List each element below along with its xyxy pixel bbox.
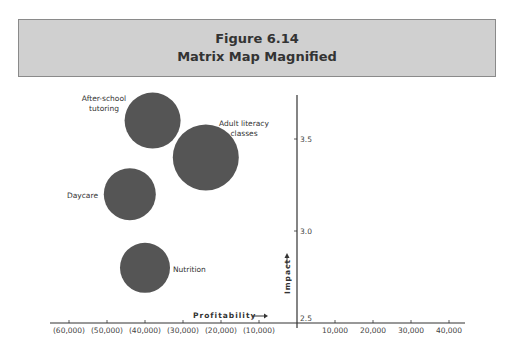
bubble-nutrition bbox=[120, 243, 170, 293]
x-axis-title: Profitability bbox=[193, 311, 256, 320]
y-axis-arrowhead-icon bbox=[285, 253, 290, 258]
y-tick-label: 2.5 bbox=[300, 314, 312, 323]
x-tick-label: 10,000 bbox=[322, 326, 348, 335]
x-tick-label: (30,000) bbox=[167, 326, 199, 335]
bubble-label: Nutrition bbox=[173, 265, 206, 274]
x-tick-label: (10,000) bbox=[243, 326, 275, 335]
y-tick-label: 3.0 bbox=[300, 227, 312, 236]
x-tick-label: (40,000) bbox=[129, 326, 161, 335]
bubble-daycare bbox=[104, 168, 156, 220]
x-axis-arrowhead-icon bbox=[264, 314, 268, 319]
bubble-label: tutoring bbox=[89, 104, 119, 113]
bubble-label: Adult literacy bbox=[219, 119, 269, 128]
bubble-label: classes bbox=[230, 129, 257, 138]
bubble-label: After-school bbox=[82, 94, 126, 103]
x-tick-label: 40,000 bbox=[436, 326, 462, 335]
x-tick-label: 30,000 bbox=[398, 326, 424, 335]
x-tick-label: (20,000) bbox=[205, 326, 237, 335]
y-tick-label: 3.5 bbox=[300, 135, 312, 144]
bubble-chart: (60,000)(50,000)(40,000)(30,000)(20,000)… bbox=[0, 0, 517, 356]
bubble-adult-literacy-classes bbox=[173, 124, 239, 190]
bubble-after-school-tutoring bbox=[125, 93, 181, 149]
x-tick-label: 20,000 bbox=[360, 326, 386, 335]
x-tick-label: (60,000) bbox=[53, 326, 85, 335]
x-tick-label: (50,000) bbox=[91, 326, 123, 335]
bubble-label: Daycare bbox=[67, 191, 98, 200]
